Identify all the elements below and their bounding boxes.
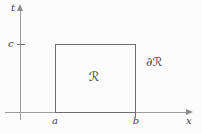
b-tick-label: b xyxy=(133,116,139,126)
region-label: ℛ xyxy=(89,70,99,83)
c-tick-label: c xyxy=(8,39,14,49)
rectangle-region-diagram: t x c a b ℛ ∂ℛ xyxy=(0,0,202,134)
t-axis-arrowhead-icon xyxy=(17,4,23,11)
t-axis-label: t xyxy=(11,3,15,13)
a-tick-label: a xyxy=(52,116,58,126)
t-axis-line xyxy=(20,10,21,120)
x-axis-label: x xyxy=(186,116,192,126)
c-tick-mark xyxy=(17,44,25,45)
boundary-label: ∂ℛ xyxy=(146,56,162,68)
